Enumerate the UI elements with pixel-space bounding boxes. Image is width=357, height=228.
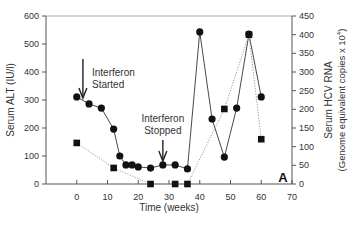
y2-tick-label: 100 — [299, 142, 314, 152]
alt-point — [172, 161, 179, 168]
alt-point — [221, 154, 228, 161]
alt-point — [196, 28, 203, 35]
series-layer — [73, 28, 265, 187]
x-axis-label: Time (weeks) — [139, 202, 199, 213]
y2-label-close: ) — [336, 29, 347, 32]
alt-point — [98, 105, 105, 112]
hcv-rna-point — [246, 31, 253, 38]
hcv-rna-point — [184, 181, 191, 188]
alt-point — [184, 165, 191, 172]
x-tick-label: 40 — [195, 192, 205, 202]
annotations: InterferonStartedInterferonStopped — [79, 59, 184, 161]
annotation-started-line2: Started — [92, 79, 124, 90]
x-tick-label: 50 — [225, 192, 235, 202]
alt-point — [122, 161, 129, 168]
y2-label-main: (Genome equivalent copies x 10 — [336, 35, 347, 171]
y2-tick-label: 150 — [299, 123, 314, 133]
hcv-rna-point — [221, 106, 228, 113]
y2-axis-label-line1: Serum HCV RNA — [323, 61, 334, 139]
annotation-stopped-line2: Stopped — [144, 125, 181, 136]
alt-point — [258, 93, 265, 100]
x-tick-label: 30 — [164, 192, 174, 202]
x-tick-label: 70 — [287, 192, 297, 202]
x-tick-label: 20 — [133, 192, 143, 202]
y-tick-label: 300 — [24, 95, 39, 105]
alt-point — [129, 161, 136, 168]
alt-point — [73, 93, 80, 100]
alt-line — [77, 32, 262, 169]
alt-point — [116, 152, 123, 159]
y2-tick-label: 250 — [299, 86, 314, 96]
y2-tick-label: 350 — [299, 48, 314, 58]
y-axis-label: Serum ALT (IU/l) — [5, 63, 16, 137]
y2-tick-label: 450 — [299, 11, 314, 21]
y2-tick-label: 0 — [299, 179, 304, 189]
alt-point — [147, 164, 154, 171]
y-tick-label: 100 — [24, 151, 39, 161]
x-tick-label: 60 — [256, 192, 266, 202]
hcv-rna-point — [258, 136, 265, 143]
panel-label: A — [278, 170, 288, 185]
hcv-rna-point — [172, 181, 179, 188]
y2-tick-label: 400 — [299, 30, 314, 40]
x-tick-label: 10 — [102, 192, 112, 202]
hcv-rna-point — [147, 181, 154, 188]
hcv-rna-point — [110, 165, 117, 172]
alt-point — [135, 163, 142, 170]
alt-point — [233, 105, 240, 112]
alt-point — [85, 100, 92, 107]
alt-point — [110, 126, 117, 133]
y2-tick-label: 200 — [299, 104, 314, 114]
alt-point — [208, 115, 215, 122]
axes: 0102030405060700100200300400500600050100… — [24, 11, 314, 202]
annotation-started-line1: Interferon — [92, 67, 135, 78]
hcv-rna-point — [73, 140, 80, 147]
y-tick-label: 500 — [24, 39, 39, 49]
chart: 0102030405060700100200300400500600050100… — [0, 0, 357, 228]
y2-tick-label: 300 — [299, 67, 314, 77]
annotation-stopped-line1: Interferon — [141, 113, 184, 124]
y-tick-label: 200 — [24, 123, 39, 133]
y-tick-label: 600 — [24, 11, 39, 21]
y2-axis-label-line2: (Genome equivalent copies x 104) — [336, 29, 347, 172]
y-tick-label: 400 — [24, 67, 39, 77]
y-tick-label: 0 — [34, 179, 39, 189]
y2-tick-label: 50 — [299, 160, 309, 170]
x-tick-label: 0 — [74, 192, 79, 202]
